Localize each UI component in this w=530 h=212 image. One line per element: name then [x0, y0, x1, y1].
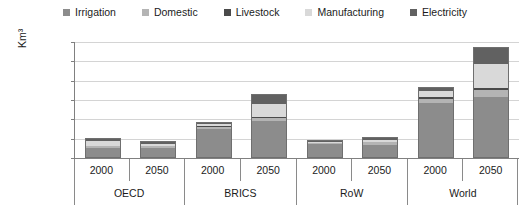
bar-world-2000[interactable]	[418, 87, 454, 158]
y-tick-mark	[71, 81, 75, 82]
legend-item-domestic[interactable]: Domestic	[142, 7, 198, 18]
legend-label-irrigation: Irrigation	[75, 7, 116, 18]
y-tick-mark	[71, 100, 75, 101]
bar-segment-irrigation	[419, 103, 453, 157]
bar-brics-2050[interactable]	[251, 94, 287, 158]
legend-swatch-domestic	[142, 9, 149, 16]
bar-segment-irrigation	[141, 148, 175, 157]
bar-segment-irrigation	[363, 145, 397, 157]
legend-label-domestic: Domestic	[154, 7, 198, 18]
bar-segment-domestic	[474, 90, 508, 98]
x-axis-year-label: 2000	[185, 159, 241, 181]
chart-legend: Irrigation Domestic Livestock Manufactur…	[0, 4, 530, 20]
legend-label-manufacturing: Manufacturing	[317, 7, 384, 18]
bar-segment-manufacturing	[252, 104, 286, 117]
x-axis-year-label: 2050	[241, 159, 297, 181]
bar-oecd-2000[interactable]	[85, 138, 121, 158]
gridline	[75, 81, 519, 82]
legend-swatch-livestock	[224, 9, 231, 16]
bar-row-2050[interactable]	[362, 137, 398, 158]
x-axis-group-label: RoW	[297, 181, 408, 205]
y-tick-mark	[71, 119, 75, 120]
x-axis: 20002050200020502000205020002050 OECDBRI…	[74, 159, 518, 205]
x-axis-year-row: 20002050200020502000205020002050	[74, 159, 518, 181]
x-axis-group-label: World	[408, 181, 518, 205]
y-tick-mark	[71, 42, 75, 43]
plot-area: 01 0002 0003 0004 0005 0006 000	[74, 42, 519, 159]
bar-segment-electricity	[474, 48, 508, 64]
x-axis-group-row: OECDBRICSRoWWorld	[74, 181, 518, 205]
x-axis-group-label: BRICS	[185, 181, 296, 205]
bar-segment-manufacturing	[474, 64, 508, 88]
legend-swatch-manufacturing	[305, 9, 312, 16]
bar-brics-2000[interactable]	[196, 122, 232, 158]
legend-item-manufacturing[interactable]: Manufacturing	[305, 7, 384, 18]
bar-segment-irrigation	[197, 129, 231, 158]
x-axis-year-label: 2050	[130, 159, 186, 181]
y-tick-mark	[71, 139, 75, 140]
bar-oecd-2050[interactable]	[140, 141, 176, 158]
bar-segment-irrigation	[86, 148, 120, 157]
legend-item-irrigation[interactable]: Irrigation	[63, 7, 116, 18]
legend-swatch-irrigation	[63, 9, 70, 16]
x-axis-year-label: 2000	[297, 159, 353, 181]
gridline	[75, 61, 519, 62]
y-axis-title: Km³	[16, 29, 28, 48]
chart-container: Irrigation Domestic Livestock Manufactur…	[0, 0, 530, 212]
bar-segment-irrigation	[252, 121, 286, 157]
bar-world-2050[interactable]	[473, 47, 509, 158]
x-axis-group-label: OECD	[74, 181, 185, 205]
legend-swatch-electricity	[410, 9, 417, 16]
legend-label-electricity: Electricity	[422, 7, 467, 18]
gridline	[75, 42, 519, 43]
x-axis-year-label: 2050	[352, 159, 408, 181]
bar-segment-irrigation	[308, 144, 342, 157]
bar-row-2000[interactable]	[307, 140, 343, 158]
y-tick-mark	[71, 61, 75, 62]
x-axis-year-label: 2050	[463, 159, 518, 181]
bar-segment-electricity	[252, 95, 286, 104]
x-axis-year-label: 2000	[74, 159, 130, 181]
legend-item-electricity[interactable]: Electricity	[410, 7, 467, 18]
bar-segment-irrigation	[474, 97, 508, 157]
legend-item-livestock[interactable]: Livestock	[224, 7, 280, 18]
x-axis-year-label: 2000	[408, 159, 464, 181]
legend-label-livestock: Livestock	[236, 7, 280, 18]
